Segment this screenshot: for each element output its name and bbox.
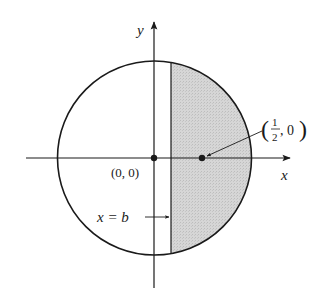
point-label-denominator: 2: [272, 131, 278, 143]
point-label-numerator: 1: [272, 116, 278, 128]
point-label-open-paren: (: [261, 116, 269, 142]
point-label: ( 1 2 , 0 ): [261, 116, 307, 143]
diagram-canvas: y x (0, 0) x = b ( 1 2 , 0 ): [0, 0, 325, 292]
origin-label: (0, 0): [111, 165, 139, 180]
y-axis-label: y: [135, 22, 144, 38]
line-label: x = b: [96, 209, 129, 225]
half-point: [199, 155, 205, 161]
point-label-rest: , 0: [280, 123, 294, 138]
point-label-close-paren: ): [299, 116, 307, 142]
origin-point: [151, 155, 157, 161]
x-axis-label: x: [280, 167, 288, 183]
